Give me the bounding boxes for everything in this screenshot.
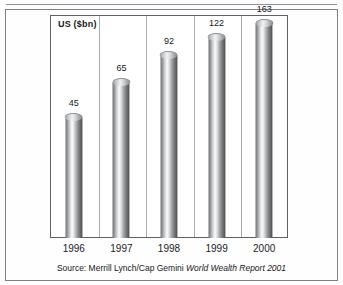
bar-2000[interactable] bbox=[256, 23, 273, 238]
bar-top-cap bbox=[160, 51, 178, 59]
category-label-2000: 2000 bbox=[240, 243, 288, 254]
bar-1998[interactable] bbox=[160, 55, 177, 238]
bar-slot: 65 bbox=[98, 15, 146, 238]
bar-slot: 45 bbox=[50, 15, 98, 238]
bar-value-label: 65 bbox=[116, 63, 126, 73]
bar-value-label: 122 bbox=[209, 18, 224, 28]
bar-top-cap bbox=[112, 78, 130, 86]
category-label-1996: 1996 bbox=[50, 243, 98, 254]
bars-layer: 45 65 92 122 163 bbox=[50, 15, 288, 238]
chart-page: US ($bn) 45 65 92 122 16 bbox=[0, 0, 343, 285]
category-label-1999: 1999 bbox=[193, 243, 241, 254]
bar-top-cap bbox=[255, 19, 273, 27]
category-label-1997: 1997 bbox=[98, 243, 146, 254]
bar-1996[interactable] bbox=[65, 117, 82, 238]
bar-1997[interactable] bbox=[113, 82, 130, 238]
top-divider-rule bbox=[6, 4, 337, 5]
bar-slot: 92 bbox=[145, 15, 193, 238]
bar-top-cap bbox=[65, 113, 83, 121]
category-label-1998: 1998 bbox=[145, 243, 193, 254]
bar-slot: 163 bbox=[240, 15, 288, 238]
bar-value-label: 45 bbox=[69, 98, 79, 108]
source-publication: World Wealth Report 2001 bbox=[186, 263, 286, 273]
source-prefix: Source: Merrill Lynch/Cap Gemini bbox=[57, 263, 186, 273]
bar-1999[interactable] bbox=[208, 37, 225, 238]
bar-value-label: 163 bbox=[257, 4, 272, 14]
bar-slot: 122 bbox=[193, 15, 241, 238]
category-axis-labels: 1996 1997 1998 1999 2000 bbox=[50, 243, 288, 257]
source-note: Source: Merrill Lynch/Cap Gemini World W… bbox=[0, 263, 343, 273]
bar-value-label: 92 bbox=[164, 36, 174, 46]
bar-top-cap bbox=[208, 33, 226, 41]
